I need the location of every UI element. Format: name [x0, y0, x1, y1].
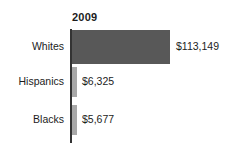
- value-label-blacks: $5,677: [82, 113, 114, 125]
- bar-blacks: [72, 105, 77, 135]
- bar-row-whites: Whites $113,149: [0, 30, 231, 64]
- bar-chart: 2009 Whites $113,149 Hispanics $6,325 Bl…: [0, 0, 231, 155]
- bar-hispanics: [72, 67, 77, 97]
- value-label-hispanics: $6,325: [82, 75, 114, 87]
- bar-whites: [72, 30, 170, 64]
- category-label-hispanics: Hispanics: [0, 75, 64, 87]
- chart-title: 2009: [72, 11, 97, 23]
- category-label-blacks: Blacks: [0, 113, 64, 125]
- bar-row-blacks: Blacks $5,677: [0, 105, 231, 135]
- bar-row-hispanics: Hispanics $6,325: [0, 67, 231, 97]
- category-label-whites: Whites: [0, 40, 64, 52]
- value-label-whites: $113,149: [176, 40, 219, 52]
